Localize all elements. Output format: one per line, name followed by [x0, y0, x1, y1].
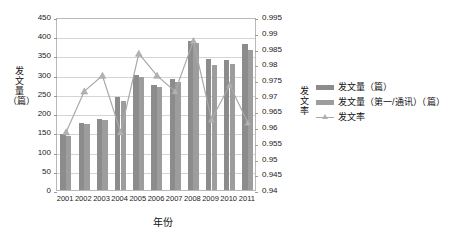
y-axis-right-tick-label: 0.96	[262, 124, 296, 132]
y-axis-right-tick-label: 0.985	[262, 46, 296, 54]
y-axis-left-tick-label: 450	[21, 14, 51, 22]
rate-marker-2011	[245, 119, 252, 125]
y-axis-right-tick-label: 0.995	[262, 14, 296, 22]
y-axis-right-tick-label: 0.97	[262, 93, 296, 101]
y-axis-right-tick-label: 0.945	[262, 171, 296, 179]
y-axis-right-tick-label: 0.975	[262, 77, 296, 85]
y-axis-right-tick-label: 0.955	[262, 140, 296, 148]
legend-item-line[interactable]: 发文率	[316, 110, 462, 125]
y-axis-left-tick-label: 300	[21, 72, 51, 80]
y-axis-left-tick-label: 250	[21, 91, 51, 99]
x-axis-title: 年份	[108, 218, 218, 228]
y-axis-left-tick-label: 350	[21, 52, 51, 60]
legend-item-series1[interactable]: 发文量（篇）	[316, 80, 462, 95]
y-axis-right-title: 发 文 率	[298, 86, 311, 116]
y-tick-mark	[54, 192, 57, 193]
y2-tick-mark	[255, 192, 258, 193]
line-series-layer	[57, 19, 257, 192]
y-axis-right-tick-label: 0.95	[262, 156, 296, 164]
y-axis-left-tick-label: 50	[21, 168, 51, 176]
y-axis-left-tick-label: 200	[21, 110, 51, 118]
y-axis-right-tick-label: 0.98	[262, 61, 296, 69]
y-axis-right-title-line: 文	[298, 96, 311, 106]
rate-line	[66, 41, 248, 132]
y-axis-right-tick-label: 0.965	[262, 108, 296, 116]
legend-item-series2[interactable]: 发文量（第一/通讯）（篇）	[316, 95, 462, 110]
bar-swatch-dark-icon	[316, 85, 334, 90]
y-axis-right-tick-label: 0.99	[262, 30, 296, 38]
x-axis-tick-label-2011: 2011	[236, 194, 258, 203]
y-axis-left-tick-label: 150	[21, 129, 51, 137]
rate-marker-2003	[99, 72, 106, 78]
y-axis-left-tick-label: 400	[21, 33, 51, 41]
rate-marker-2005	[135, 50, 142, 56]
rate-marker-2008	[190, 38, 197, 44]
y-axis-left-tick-label: 100	[21, 149, 51, 157]
chart-root: 发 文 量 （篇） 发 文 率 年份 050100150200250300350…	[0, 0, 464, 239]
line-marker-icon	[316, 113, 334, 122]
plot-area	[56, 18, 256, 191]
legend-label: 发文率	[338, 111, 365, 124]
rate-marker-2004	[117, 129, 124, 135]
y-axis-left-tick-label: 0	[21, 187, 51, 195]
rate-marker-2001	[63, 129, 70, 135]
bar-swatch-light-icon	[316, 100, 334, 105]
y-axis-right-title-line: 率	[298, 106, 311, 116]
rate-marker-2010	[226, 82, 233, 88]
y-axis-right-tick-label: 0.94	[262, 187, 296, 195]
legend: 发文量（篇） 发文量（第一/通讯）（篇） 发文率	[316, 80, 462, 125]
rate-marker-2009	[208, 116, 215, 122]
legend-label: 发文量（第一/通讯）（篇）	[338, 96, 445, 109]
legend-label: 发文量（篇）	[338, 81, 392, 94]
y-axis-right-title-line: 发	[298, 86, 311, 96]
